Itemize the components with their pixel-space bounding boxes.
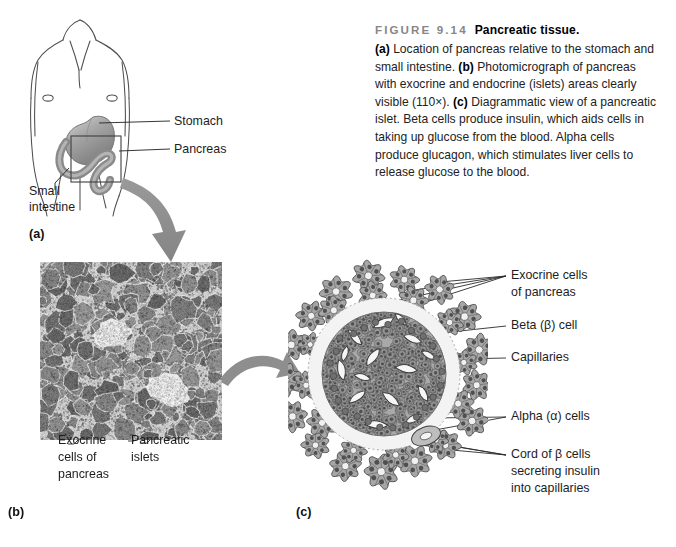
label-b-islets-line1: Pancreatic bbox=[131, 432, 190, 448]
label-pancreas: Pancreas bbox=[174, 141, 226, 157]
label-stomach: Stomach bbox=[174, 113, 223, 129]
label-c-beta-cell: Beta (β) cell bbox=[511, 317, 577, 333]
label-b-exocrine-line2: cells of bbox=[58, 449, 97, 465]
figure-number: FIGURE 9.14 bbox=[375, 23, 468, 36]
label-c-cord-line2: secreting insulin bbox=[511, 463, 600, 479]
label-c-cord-line1: Cord of β cells bbox=[511, 446, 590, 462]
pancreas-zoom-box bbox=[71, 136, 121, 182]
caption-tag-a: (a) bbox=[375, 42, 390, 56]
pancreatic-islet-diagram bbox=[288, 258, 488, 490]
figure-title: Pancreatic tissue. bbox=[475, 23, 580, 37]
caption-tag-c: (c) bbox=[453, 95, 468, 109]
figure-heading: FIGURE 9.14Pancreatic tissue. bbox=[375, 22, 657, 38]
label-c-alpha-cells: Alpha (α) cells bbox=[511, 408, 590, 424]
label-c-exocrine-line1: Exocrine cells bbox=[511, 267, 587, 283]
panel-label-a: (a) bbox=[29, 227, 44, 241]
label-b-islets-line2: islets bbox=[131, 449, 159, 465]
label-small-intestine-line1: Small bbox=[29, 183, 60, 199]
label-b-exocrine-line3: pancreas bbox=[58, 466, 109, 482]
panel-a-leader-lines bbox=[55, 121, 170, 190]
label-c-cord-line3: into capillaries bbox=[511, 480, 590, 496]
label-c-capillaries: Capillaries bbox=[511, 349, 569, 365]
label-c-exocrine-line2: of pancreas bbox=[511, 284, 576, 300]
figure-caption-body: (a) Location of pancreas relative to the… bbox=[375, 41, 657, 182]
label-small-intestine-line2: intestine bbox=[29, 199, 75, 215]
pancreas-shape bbox=[59, 142, 111, 191]
pancreas-photomicrograph bbox=[40, 262, 222, 440]
panel-label-b: (b) bbox=[8, 505, 24, 519]
arrow-a-to-b bbox=[120, 178, 186, 262]
panel-label-c: (c) bbox=[296, 505, 311, 519]
figure-caption: FIGURE 9.14Pancreatic tissue. (a) Locati… bbox=[375, 22, 657, 182]
caption-tag-b: (b) bbox=[458, 60, 473, 74]
label-b-exocrine-line1: Exocrine bbox=[58, 432, 106, 448]
figure-page: FIGURE 9.14Pancreatic tissue. (a) Locati… bbox=[0, 0, 676, 547]
stomach-shape bbox=[65, 116, 114, 164]
